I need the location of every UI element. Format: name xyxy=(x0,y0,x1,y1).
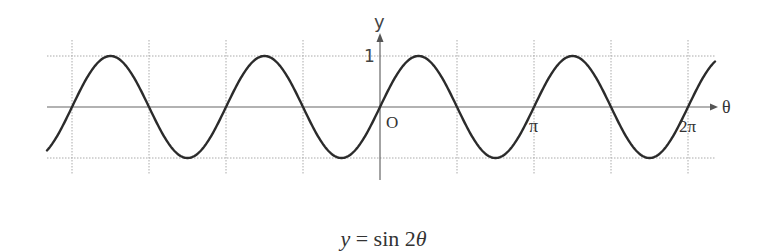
y-axis-label: y xyxy=(374,11,385,32)
x-axis-arrow-icon xyxy=(710,104,718,111)
caption-equals-sin: = sin 2 xyxy=(350,226,416,251)
chart-caption: y = sin 2θ xyxy=(0,226,767,252)
y-tick-1: 1 xyxy=(364,46,375,66)
origin-label: O xyxy=(386,113,398,132)
caption-y: y xyxy=(340,226,350,251)
x-tick-2pi: 2π xyxy=(679,117,697,136)
caption-theta: θ xyxy=(416,226,427,251)
x-tick-pi: π xyxy=(529,116,538,136)
sine-chart: y θ O 1 π 2π xyxy=(0,0,767,220)
x-axis-label: θ xyxy=(722,97,731,117)
y-axis-arrow-icon xyxy=(377,33,384,42)
